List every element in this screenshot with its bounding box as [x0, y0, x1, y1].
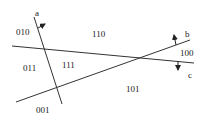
normal-arrow-a-icon [38, 24, 45, 28]
line-label-c: c [188, 71, 192, 80]
region-label-101: 101 [126, 85, 140, 94]
diagram-lines [0, 0, 208, 121]
line-label-b: b [185, 30, 190, 39]
region-label-111: 111 [62, 61, 75, 70]
region-label-011: 011 [23, 64, 36, 73]
region-label-010: 010 [16, 28, 30, 37]
hyperplane-arrangement-diagram: a b c 010 110 100 011 111 101 001 [0, 0, 208, 121]
region-label-110: 110 [92, 30, 105, 39]
normal-arrow-b-icon [174, 35, 176, 45]
region-label-100: 100 [180, 49, 194, 58]
line-label-a: a [35, 9, 39, 18]
region-label-001: 001 [36, 106, 50, 115]
